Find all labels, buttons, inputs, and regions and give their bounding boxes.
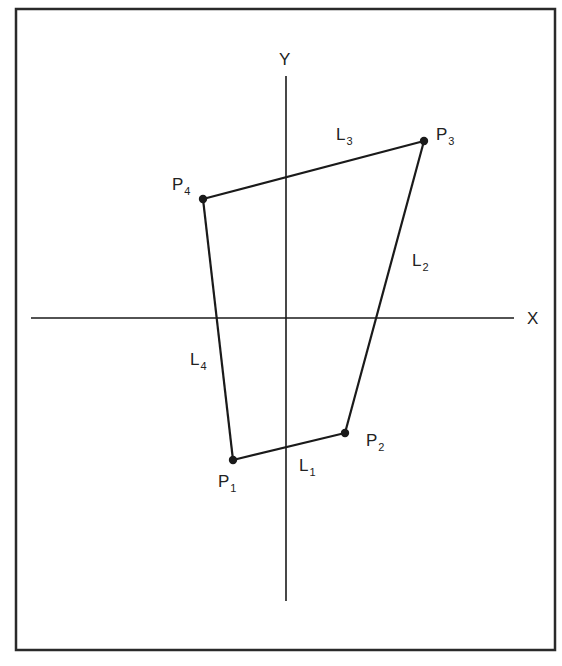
point-label-p4: P4 <box>172 175 190 197</box>
line-label-l2: L2 <box>412 251 429 273</box>
point-label-p3: P3 <box>436 125 454 147</box>
edge-l4 <box>203 199 233 460</box>
quadrilateral-vertices <box>199 137 428 464</box>
x-axis-label: X <box>527 309 538 328</box>
vertex-p2 <box>341 429 349 437</box>
point-label-p1: P1 <box>218 472 236 494</box>
line-label-l4: L4 <box>190 350 207 372</box>
edge-l1 <box>233 433 345 460</box>
edge-l3 <box>203 141 424 199</box>
vertex-p3 <box>420 137 428 145</box>
line-label-l1: L1 <box>299 456 316 478</box>
vertex-p1 <box>229 456 237 464</box>
edge-l2 <box>345 141 424 433</box>
element-labels: P1P2P3P4L1L2L3L4 <box>172 125 454 494</box>
line-label-l3: L3 <box>336 125 353 147</box>
point-label-p2: P2 <box>366 431 384 453</box>
quadrilateral-edges <box>203 141 424 460</box>
y-axis-label: Y <box>279 50 290 69</box>
vertex-p4 <box>199 195 207 203</box>
quadrilateral-diagram: X Y P1P2P3P4L1L2L3L4 <box>0 0 562 666</box>
